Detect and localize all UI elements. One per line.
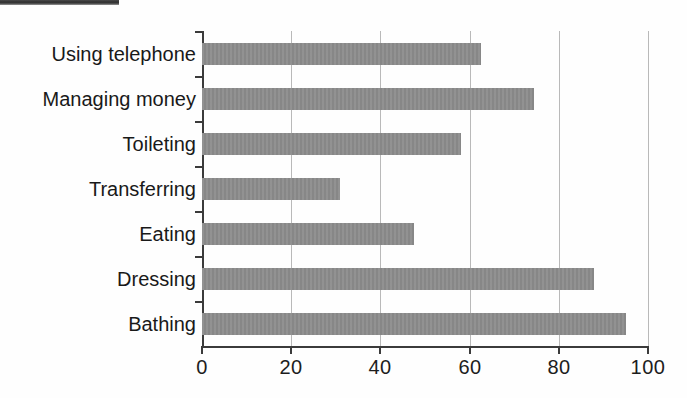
x-tick-label-100: 100 bbox=[631, 356, 666, 379]
bar bbox=[202, 133, 461, 155]
bar bbox=[202, 313, 626, 335]
bar bbox=[202, 88, 534, 110]
gridline-80 bbox=[559, 31, 560, 346]
x-tick-label-60: 60 bbox=[458, 356, 481, 379]
bar bbox=[202, 223, 414, 245]
x-tick-label-40: 40 bbox=[368, 356, 391, 379]
x-tick-label-80: 80 bbox=[547, 356, 570, 379]
bar bbox=[202, 268, 594, 290]
gridline-60 bbox=[470, 31, 471, 346]
category-label: Dressing bbox=[117, 268, 196, 291]
x-axis-line bbox=[202, 346, 649, 348]
bar-chart-figure: Using telephoneManaging moneyToiletingTr… bbox=[0, 0, 687, 398]
scan-artifact-strip bbox=[0, 0, 119, 5]
gridline-100 bbox=[648, 31, 649, 346]
category-label: Transferring bbox=[89, 178, 196, 201]
gridline-40 bbox=[380, 31, 381, 346]
category-label: Toileting bbox=[123, 133, 196, 156]
category-label: Eating bbox=[139, 223, 196, 246]
x-tick-label-0: 0 bbox=[196, 356, 208, 379]
category-label: Using telephone bbox=[51, 43, 196, 66]
category-label: Bathing bbox=[128, 313, 196, 336]
bar bbox=[202, 178, 340, 200]
bar bbox=[202, 43, 481, 65]
category-label: Managing money bbox=[43, 88, 196, 111]
x-tick-label-20: 20 bbox=[279, 356, 302, 379]
